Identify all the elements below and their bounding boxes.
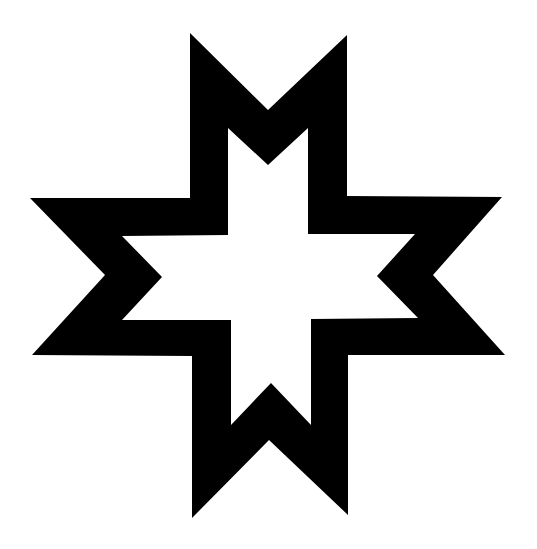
star-symbol-canvas: Eight-pointed star symbol outlined in bl… [0, 0, 537, 549]
star-outline-shape [30, 33, 505, 518]
eight-pointed-star-icon [0, 0, 537, 549]
